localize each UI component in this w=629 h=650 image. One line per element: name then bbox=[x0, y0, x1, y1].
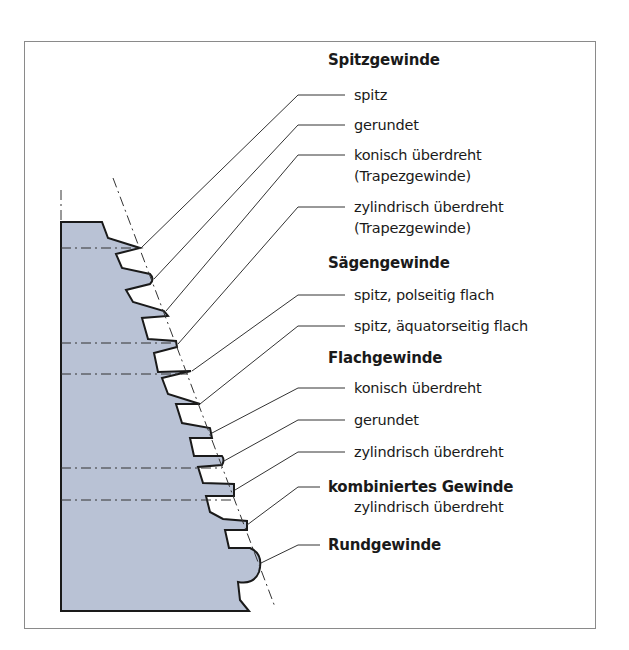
heading-rundgewinde: Rundgewinde bbox=[328, 537, 441, 553]
thread-profile-drawing bbox=[0, 0, 629, 650]
label-flach-zylindrisch: zylindrisch überdreht bbox=[354, 444, 503, 460]
label-gerundet: gerundet bbox=[354, 117, 419, 133]
heading-saegengewinde: Sägengewinde bbox=[328, 255, 450, 271]
label-spitz: spitz bbox=[354, 87, 387, 103]
label-trapezgewinde-1: (Trapezgewinde) bbox=[354, 168, 471, 184]
label-zylindrisch-ueberdreht: zylindrisch überdreht bbox=[354, 199, 503, 215]
thread-profile-shape bbox=[61, 222, 260, 611]
heading-spitzgewinde: Spitzgewinde bbox=[328, 52, 440, 68]
heading-flachgewinde: Flachgewinde bbox=[328, 350, 442, 366]
label-trapezgewinde-2: (Trapezgewinde) bbox=[354, 220, 471, 236]
heading-kombiniertes-gewinde: kombiniertes Gewinde bbox=[328, 479, 513, 495]
label-flach-konisch: konisch überdreht bbox=[354, 380, 482, 396]
label-kombiniert-zylindrisch: zylindrisch überdreht bbox=[354, 499, 503, 515]
label-flach-gerundet: gerundet bbox=[354, 412, 419, 428]
label-spitz-aequatorseitig: spitz, äquatorseitig flach bbox=[354, 318, 528, 334]
label-konisch-ueberdreht: konisch überdreht bbox=[354, 147, 482, 163]
label-spitz-polseitig: spitz, polseitig flach bbox=[354, 287, 494, 303]
